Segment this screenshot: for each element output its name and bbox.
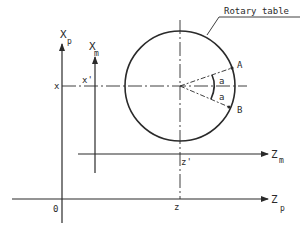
point-b-label: B xyxy=(237,105,242,115)
xp-axis-subscript: p xyxy=(67,37,72,46)
point-a-marker xyxy=(230,66,233,69)
point-a-label: A xyxy=(237,60,243,70)
xp-axis-label: X xyxy=(60,28,67,41)
zp-axis-subscript: p xyxy=(280,204,285,213)
angle-a-upper-label: a xyxy=(219,76,224,86)
xm-axis-subscript: m xyxy=(94,49,99,58)
zm-axis-subscript: m xyxy=(279,156,284,165)
x-coordinate-label: x xyxy=(54,81,60,91)
zp-axis-label: Z xyxy=(271,193,278,206)
z-prime-coordinate-label: z' xyxy=(181,157,192,167)
x-prime-coordinate-label: x' xyxy=(82,75,93,85)
callout-leader xyxy=(207,17,300,35)
zm-axis-label: Z xyxy=(271,148,278,161)
angle-arc xyxy=(211,75,214,99)
rotary-table-diagram: Rotary table X p X m Z m Z p x x' z' z 0… xyxy=(0,0,302,240)
z-coordinate-label: z xyxy=(174,202,179,212)
rotary-table-label: Rotary table xyxy=(224,6,289,16)
point-b-marker xyxy=(227,105,230,108)
origin-label: 0 xyxy=(53,204,58,214)
angle-a-lower-label: a xyxy=(219,92,224,102)
